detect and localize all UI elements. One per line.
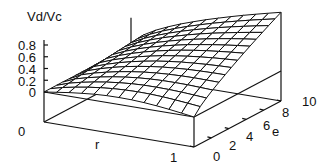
r-tick-label: 1: [170, 151, 177, 164]
e-tick-label: 6: [263, 119, 270, 132]
e-tick-label: 10: [302, 95, 316, 108]
floor-zero-label: 0: [18, 125, 25, 138]
e-axis-title: e: [272, 125, 279, 138]
z-tick-label: 0: [10, 86, 36, 99]
z-axis-title: Vd/Vc: [27, 10, 62, 23]
e-tick-label: 2: [229, 139, 236, 152]
e-tick-label: 8: [282, 106, 289, 119]
surface-plot: [0, 0, 329, 167]
e-tick-label: 4: [246, 130, 253, 143]
r-axis-title: r: [95, 138, 99, 151]
e-tick-label: 0: [213, 150, 220, 163]
wireframe-surface: [44, 12, 281, 117]
